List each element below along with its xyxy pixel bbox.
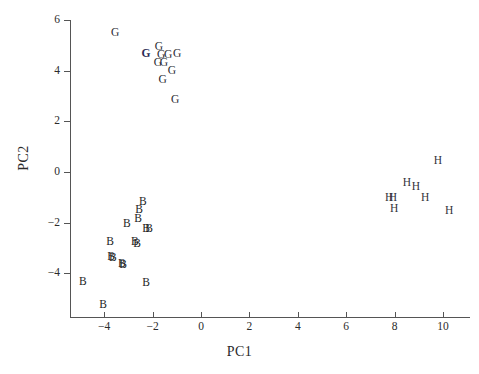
y-tick-label-text: 6: [38, 14, 60, 26]
x-axis-line: [70, 317, 470, 318]
data-point-h: H: [412, 181, 420, 193]
x-tick-label: −4: [89, 320, 119, 332]
data-point-b: B: [142, 277, 150, 289]
x-tick-label: −2: [138, 320, 168, 332]
data-point-g: G: [111, 27, 119, 39]
x-tick-mark: [443, 312, 444, 317]
y-tick-label: 0: [34, 166, 60, 178]
x-tick-mark: [201, 312, 202, 317]
x-tick-mark: [395, 312, 396, 317]
data-point-b: B: [123, 218, 131, 230]
x-tick-mark: [298, 312, 299, 317]
y-tick-mark: [64, 273, 70, 274]
y-tick-label-text: −4: [38, 267, 60, 279]
data-point-b: B: [109, 252, 117, 264]
data-point-b: B: [106, 236, 114, 248]
y-tick-mark: [64, 71, 70, 72]
y-tick-label: −4: [34, 267, 60, 279]
data-point-b: B: [134, 213, 142, 225]
x-tick-mark: [104, 312, 105, 317]
data-point-g: G: [171, 94, 179, 106]
data-point-g: G: [168, 65, 176, 77]
y-tick-label: −2: [34, 217, 60, 229]
data-point-b: B: [79, 276, 87, 288]
data-point-h: H: [403, 177, 411, 189]
y-tick-label: 2: [34, 115, 60, 127]
x-tick-label: 2: [234, 320, 264, 332]
data-point-g: G: [142, 48, 151, 60]
y-tick-label-text: 4: [38, 65, 60, 77]
data-point-g: G: [159, 74, 167, 86]
x-axis-title: PC1: [0, 344, 479, 360]
x-tick-label: 8: [380, 320, 410, 332]
data-point-g: G: [173, 48, 181, 60]
y-tick-label: 6: [34, 14, 60, 26]
data-point-b: B: [133, 238, 141, 250]
y-tick-label-text: 2: [38, 115, 60, 127]
y-tick-mark: [64, 20, 70, 21]
y-axis-title: PC2: [16, 128, 32, 188]
x-tick-mark: [249, 312, 250, 317]
x-tick-label: 6: [331, 320, 361, 332]
y-tick-mark: [64, 172, 70, 173]
data-point-b: B: [145, 223, 153, 235]
scatter-plot: −4−20246 −4−20246810 GGGGGGGGGGGBBBBBBBB…: [0, 0, 479, 374]
x-tick-label: 0: [186, 320, 216, 332]
y-tick-label: 4: [34, 65, 60, 77]
y-tick-mark: [64, 223, 70, 224]
data-point-h: H: [445, 205, 453, 217]
y-axis-line: [70, 20, 71, 318]
x-tick-mark: [346, 312, 347, 317]
x-tick-mark: [153, 312, 154, 317]
data-point-h: H: [421, 192, 429, 204]
data-point-b: B: [99, 299, 107, 311]
x-tick-label: 10: [428, 320, 458, 332]
data-point-b: B: [119, 259, 127, 271]
data-point-h: H: [390, 203, 398, 215]
x-tick-label: 4: [283, 320, 313, 332]
data-point-h: H: [434, 155, 442, 167]
y-tick-label-text: 0: [38, 166, 60, 178]
y-tick-label-text: −2: [38, 217, 60, 229]
y-tick-mark: [64, 121, 70, 122]
